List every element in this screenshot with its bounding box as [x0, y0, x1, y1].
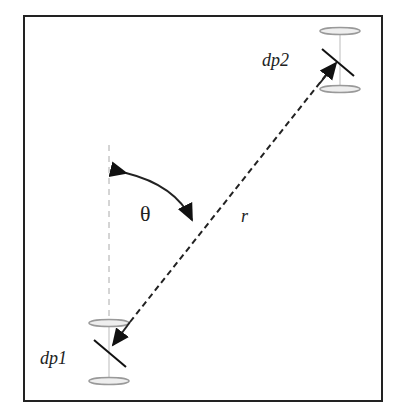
ellipse-top — [320, 28, 360, 35]
ellipse-bottom — [89, 378, 129, 385]
distance-arrow — [130, 70, 330, 322]
dipole-1 — [89, 320, 129, 385]
diagram-canvas: dp2 dp1 θ r — [0, 0, 398, 420]
angle-arc — [126, 173, 192, 220]
dipole-2 — [320, 28, 360, 93]
ellipse-top — [89, 320, 129, 327]
dipole-1-moment — [94, 340, 126, 367]
angle-label: θ — [140, 201, 151, 226]
dipole-1-label: dp1 — [40, 348, 67, 368]
distance-label: r — [241, 206, 249, 226]
dipole-2-label: dp2 — [262, 50, 289, 70]
dipole-2-moment — [322, 49, 354, 76]
ellipse-bottom — [320, 86, 360, 93]
